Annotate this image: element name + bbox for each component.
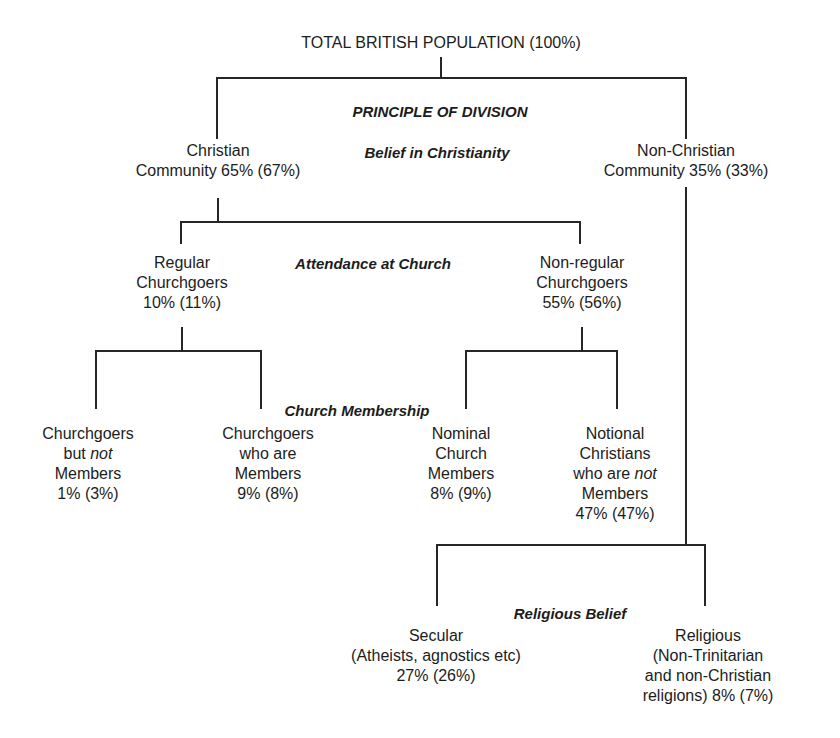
- node-line: religions) 8% (7%): [643, 686, 774, 706]
- secular-drop-line: [436, 544, 438, 606]
- node-line: 10% (11%): [136, 293, 228, 313]
- node-line: Notional: [573, 424, 657, 444]
- node-line: 8% (9%): [428, 484, 495, 504]
- christian-drop-line: [216, 77, 218, 139]
- node-text: but: [64, 445, 91, 462]
- node-line: but not: [42, 444, 134, 464]
- node-nominal-church-members: Nominal Church Members 8% (9%): [428, 424, 495, 504]
- node-christian-community: Christian Community 65% (67%): [136, 141, 301, 181]
- principle-of-division-heading: PRINCIPLE OF DIVISION: [352, 103, 527, 120]
- division-label-religious-belief: Religious Belief: [514, 605, 627, 622]
- node-line: Non-Christian: [604, 141, 769, 161]
- node-line: Churchgoers: [136, 273, 228, 293]
- node-line: Non-regular: [536, 253, 628, 273]
- non-regular-stem-line: [581, 327, 583, 352]
- churchgoers-members-drop-line: [260, 350, 262, 409]
- root-bracket-line: [216, 77, 687, 79]
- emphasis-not: not: [635, 465, 657, 482]
- religious-drop-line: [704, 544, 706, 606]
- node-line: Christians: [573, 444, 657, 464]
- emphasis-not: not: [90, 445, 112, 462]
- node-line: Community 35% (33%): [604, 161, 769, 181]
- cropped-caption-fragment: [0, 0, 840, 2]
- non-regular-drop-line: [579, 221, 581, 244]
- node-line: Nominal: [428, 424, 495, 444]
- node-line: Churchgoers: [222, 424, 314, 444]
- node-non-regular-churchgoers: Non-regular Churchgoers 55% (56%): [536, 253, 628, 313]
- node-line: 47% (47%): [573, 504, 657, 524]
- node-line: 1% (3%): [42, 484, 134, 504]
- node-line: 55% (56%): [536, 293, 628, 313]
- node-line: Members: [42, 464, 134, 484]
- node-line: Members: [428, 464, 495, 484]
- non-christian-drop-line: [685, 77, 687, 139]
- node-line: Churchgoers: [536, 273, 628, 293]
- node-line: Church: [428, 444, 495, 464]
- division-label-belief-in-christianity: Belief in Christianity: [364, 144, 509, 161]
- node-line: Secular: [351, 626, 521, 646]
- node-line: (Non-Trinitarian: [643, 646, 774, 666]
- religious-belief-bracket-line: [436, 544, 706, 546]
- node-line: and non-Christian: [643, 666, 774, 686]
- node-line: Regular: [136, 253, 228, 273]
- node-non-christian-community: Non-Christian Community 35% (33%): [604, 141, 769, 181]
- churchgoers-not-members-drop-line: [95, 350, 97, 409]
- node-secular: Secular (Atheists, agnostics etc) 27% (2…: [351, 626, 521, 686]
- non-regular-membership-bracket-line: [465, 350, 618, 352]
- node-text: who are: [573, 465, 634, 482]
- node-notional-christians: Notional Christians who are not Members …: [573, 424, 657, 524]
- regular-stem-line: [181, 327, 183, 352]
- node-churchgoers-not-members: Churchgoers but not Members 1% (3%): [42, 424, 134, 504]
- node-line: who are: [222, 444, 314, 464]
- node-line: who are not: [573, 464, 657, 484]
- node-line: Christian: [136, 141, 301, 161]
- node-religious: Religious (Non-Trinitarian and non-Chris…: [643, 626, 774, 706]
- root-stem-line: [440, 57, 442, 78]
- node-line: Members: [222, 464, 314, 484]
- node-regular-churchgoers: Regular Churchgoers 10% (11%): [136, 253, 228, 313]
- node-line: Community 65% (67%): [136, 161, 301, 181]
- node-line: 9% (8%): [222, 484, 314, 504]
- node-line: Churchgoers: [42, 424, 134, 444]
- node-line: Members: [573, 484, 657, 504]
- root-node-total-population: TOTAL BRITISH POPULATION (100%): [301, 34, 580, 52]
- notional-christians-drop-line: [616, 350, 618, 409]
- attendance-bracket-line: [180, 221, 581, 223]
- christian-stem-line: [217, 198, 219, 223]
- node-line: 27% (26%): [351, 666, 521, 686]
- node-churchgoers-members: Churchgoers who are Members 9% (8%): [222, 424, 314, 504]
- regular-drop-line: [180, 221, 182, 244]
- regular-membership-bracket-line: [95, 350, 262, 352]
- node-line: (Atheists, agnostics etc): [351, 646, 521, 666]
- division-label-church-membership: Church Membership: [284, 402, 429, 419]
- division-label-attendance-at-church: Attendance at Church: [295, 255, 451, 272]
- nominal-members-drop-line: [465, 350, 467, 409]
- non-christian-long-line: [685, 187, 687, 546]
- node-line: Religious: [643, 626, 774, 646]
